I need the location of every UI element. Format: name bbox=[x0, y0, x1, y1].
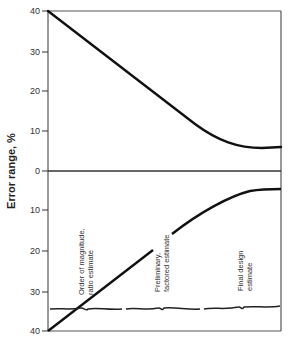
phase-dividers bbox=[50, 306, 280, 310]
tick-label-lower-30: 30 bbox=[30, 287, 40, 297]
tick-label-lower-10: 10 bbox=[30, 205, 40, 215]
tick-label-zero: 0 bbox=[35, 166, 40, 176]
annotation-order-line1: Order of magnitude, bbox=[77, 228, 86, 295]
error-range-chart: 40 30 20 10 0 10 20 30 40 Error range, %… bbox=[0, 0, 288, 338]
tick-label-upper-20: 20 bbox=[30, 86, 40, 96]
annotation-final-line1: Final design bbox=[236, 251, 245, 291]
annotation-prelim-line2: factored estimate bbox=[162, 234, 171, 292]
tick-label-upper-30: 30 bbox=[30, 47, 40, 57]
wavy-divider-1 bbox=[50, 308, 122, 310]
tick-label-upper-10: 10 bbox=[30, 126, 40, 136]
tick-label-lower-40: 40 bbox=[30, 326, 40, 336]
y-ticks bbox=[42, 11, 48, 331]
wavy-divider-2 bbox=[126, 308, 200, 310]
wavy-divider-3 bbox=[204, 306, 280, 309]
annotation-order-of-magnitude: Order of magnitude, ratio estimate bbox=[77, 228, 95, 295]
y-axis-label: Error range, % bbox=[5, 133, 17, 209]
annotation-final-line2: estimate bbox=[245, 263, 254, 291]
upper-error-curve bbox=[48, 11, 281, 148]
tick-label-lower-20: 20 bbox=[30, 246, 40, 256]
annotation-prelim-line1: Preliminary, bbox=[153, 253, 162, 292]
tick-label-upper-40: 40 bbox=[30, 6, 40, 16]
annotation-preliminary: Preliminary, factored estimate bbox=[153, 234, 171, 292]
lower-error-curve-segment-2 bbox=[172, 189, 281, 234]
lower-error-curve-segment-1 bbox=[48, 250, 153, 331]
annotation-order-line2: ratio estimate bbox=[86, 250, 95, 295]
annotation-final-design: Final design estimate bbox=[236, 251, 254, 291]
